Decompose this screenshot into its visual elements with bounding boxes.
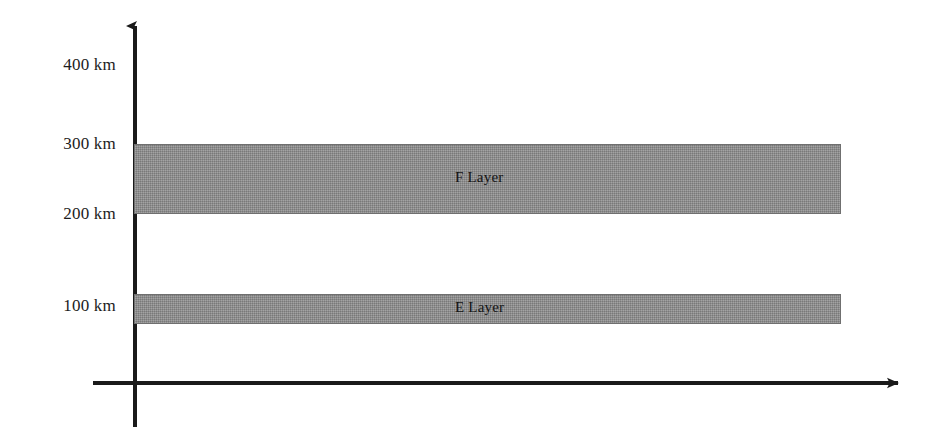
axis-tick-label-100: 100 km bbox=[44, 296, 116, 316]
axis-tick-label-300: 300 km bbox=[44, 134, 116, 154]
f-layer-label: F Layer bbox=[455, 169, 503, 186]
axis-tick-label-400: 400 km bbox=[44, 55, 116, 75]
axes-group bbox=[0, 0, 947, 442]
e-layer-label: E Layer bbox=[455, 299, 504, 316]
ionosphere-diagram: 400 km 300 km 200 km 100 km F Layer E La… bbox=[0, 0, 947, 442]
axis-tick-label-200: 200 km bbox=[44, 204, 116, 224]
